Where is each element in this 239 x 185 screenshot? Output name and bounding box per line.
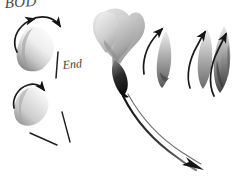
guide-diagonal-b	[62, 112, 70, 142]
upper-left-blob	[17, 27, 54, 72]
right-teardrop-1	[157, 30, 172, 88]
lower-left-blob	[14, 88, 48, 126]
central-cloud-head	[93, 9, 145, 66]
brush-stroke-diagram: BOD End	[0, 0, 239, 185]
guide-end-tick	[56, 52, 58, 78]
label-end: End	[62, 56, 83, 73]
guide-diagonal-a	[30, 133, 57, 145]
arrow-arc-right-top	[30, 17, 60, 26]
diagram-artwork	[0, 0, 239, 185]
right-teardrop-3	[214, 26, 231, 93]
central-tail	[123, 94, 204, 170]
